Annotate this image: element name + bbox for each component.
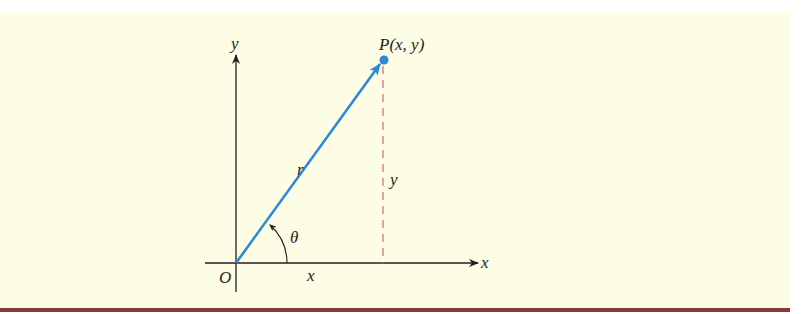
origin-label: O — [219, 268, 231, 287]
radius-vector-arrow — [236, 64, 380, 263]
theta-label: θ — [290, 228, 298, 247]
point-p-label: P(x, y) — [378, 35, 425, 54]
radius-r-label: r — [297, 160, 304, 179]
point-p-marker — [380, 56, 389, 65]
x-length-label: x — [306, 266, 315, 285]
x-axis-label: x — [480, 253, 489, 272]
y-axis-label: y — [229, 34, 239, 53]
angle-theta-arc — [270, 225, 287, 263]
polar-coordinates-diagram: y x P(x, y) r y θ O x — [0, 0, 801, 314]
y-length-label: y — [388, 170, 398, 189]
